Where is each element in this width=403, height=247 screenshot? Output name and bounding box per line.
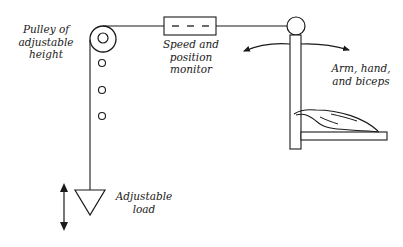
elbow-pivot [287,17,305,35]
label-pulley: Pulley of adjustable height [14,23,78,61]
label-monitor-line-2: position [156,51,226,64]
hand-platform [301,132,387,140]
label-load-line-1: Adjustable [114,190,174,203]
adjustable-load [75,190,105,215]
label-arm-line-1: Arm, hand, [320,62,402,75]
label-pulley-line-3: height [14,48,78,61]
label-pulley-line-2: adjustable [14,36,78,49]
label-pulley-line-1: Pulley of [14,23,78,36]
forearm-rod [290,35,301,149]
pulley [90,26,116,52]
label-monitor-line-3: monitor [156,63,226,76]
pulley-height-positions [99,60,106,120]
speed-position-monitor [164,17,216,35]
label-arm: Arm, hand, and biceps [320,62,402,87]
label-load-line-2: load [114,203,174,216]
label-monitor-line-1: Speed and [156,38,226,51]
label-load: Adjustable load [114,190,174,215]
label-monitor: Speed and position monitor [156,38,226,76]
label-arm-line-2: and biceps [320,75,402,88]
hand-shape [294,110,379,132]
vertical-double-arrow-icon [60,183,68,231]
